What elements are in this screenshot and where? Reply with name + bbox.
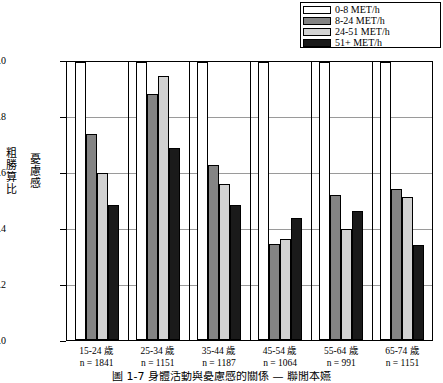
bar (197, 62, 208, 340)
bar (380, 62, 391, 340)
x-group-label-65-74: 65-74 歲 n = 1151 (372, 345, 433, 369)
legend-swatch-8-24-met (303, 17, 331, 25)
bar (86, 134, 97, 340)
x-group-label-25-34: 25-34 歲 n = 1151 (127, 345, 188, 369)
x-sample-size: n = 1151 (372, 357, 433, 369)
bar (97, 173, 108, 340)
x-sample-size: n = 991 (311, 357, 372, 369)
bar-group (128, 62, 189, 340)
x-sample-size: n = 1064 (250, 357, 311, 369)
y-tick-label-0.2: 0.2 (0, 280, 6, 290)
bar (291, 218, 302, 340)
x-group-label-35-44: 35-44 歲 n = 1187 (188, 345, 249, 369)
x-sample-size: n = 1151 (127, 357, 188, 369)
bar (402, 197, 413, 340)
bar-group (249, 62, 310, 340)
legend-swatch-51-plus-met (303, 39, 331, 47)
legend-item: 0-8 MET/h (303, 4, 438, 15)
x-group-label-15-24: 15-24 歲 n = 1841 (66, 345, 127, 369)
x-age-label: 45-54 歲 (250, 345, 311, 357)
y-tick-label-0.8: 0.8 (0, 112, 6, 122)
legend-item: 51+ MET/h (303, 37, 438, 48)
bar (341, 229, 352, 340)
bar-group (371, 62, 432, 340)
legend-swatch-24-51-met (303, 28, 331, 36)
y-tick-mark (60, 341, 66, 342)
plot-area (66, 61, 433, 341)
legend-label: 0-8 MET/h (335, 5, 380, 15)
bar-group (310, 62, 371, 340)
bar (169, 148, 180, 340)
x-sample-size: n = 1841 (66, 357, 127, 369)
bar (330, 195, 341, 340)
legend-swatch-0-8-met (303, 6, 331, 14)
x-age-label: 55-64 歲 (311, 345, 372, 357)
y-tick-label-0.6: 0.6 (0, 168, 6, 178)
bar (391, 189, 402, 341)
bar (280, 239, 291, 340)
y-axis-title-odds-ratio: 粗勝算比 (5, 148, 18, 196)
legend-label: 24-51 MET/h (335, 27, 390, 37)
x-group-label-45-54: 45-54 歲 n = 1064 (250, 345, 311, 369)
y-axis-title-anxiety: 憂慮感 (29, 154, 42, 190)
bar-group (67, 62, 128, 340)
legend-item: 24-51 MET/h (303, 26, 438, 37)
bar (269, 244, 280, 340)
legend-label: 51+ MET/h (335, 38, 382, 48)
bar (352, 211, 363, 340)
x-axis-labels: 15-24 歲 n = 1841 25-34 歲 n = 1151 35-44 … (66, 345, 433, 369)
figure-caption: 圖 1-7 身體活動與憂慮感的關係 — 聯閒本嬿 (0, 371, 443, 383)
y-tick-label-0.0: 0.0 (0, 336, 6, 346)
bar (319, 62, 330, 340)
bar (158, 76, 169, 340)
y-tick-label-1.0: 1.0 (0, 56, 6, 66)
x-age-label: 65-74 歲 (372, 345, 433, 357)
x-sample-size: n = 1187 (188, 357, 249, 369)
bar (219, 184, 230, 340)
x-age-label: 25-34 歲 (127, 345, 188, 357)
bar (108, 205, 119, 340)
chart-legend: 0-8 MET/h 8-24 MET/h 24-51 MET/h 51+ MET… (300, 2, 441, 48)
bar (208, 165, 219, 340)
x-age-label: 35-44 歲 (188, 345, 249, 357)
x-group-label-55-64: 55-64 歲 n = 991 (311, 345, 372, 369)
bar-series-container (67, 62, 432, 340)
bar (230, 205, 241, 340)
bar (258, 62, 269, 340)
bar (147, 94, 158, 340)
y-tick-label-0.4: 0.4 (0, 224, 6, 234)
legend-item: 8-24 MET/h (303, 15, 438, 26)
bar (75, 62, 86, 340)
bar-group (189, 62, 250, 340)
x-age-label: 15-24 歲 (66, 345, 127, 357)
bar (413, 245, 424, 340)
legend-label: 8-24 MET/h (335, 16, 385, 26)
bar (136, 62, 147, 340)
